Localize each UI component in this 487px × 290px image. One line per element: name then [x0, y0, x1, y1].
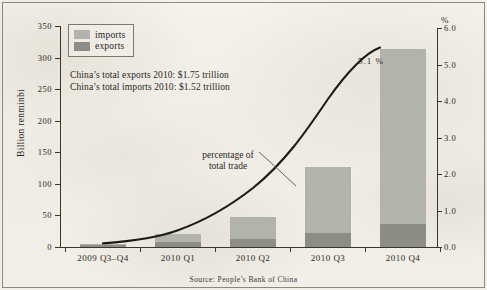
legend-label-exports: exports [95, 41, 124, 51]
y-tick-label: 250 [28, 84, 52, 94]
bar-imports [305, 167, 351, 233]
annotation-line-2: total trade [178, 161, 278, 172]
y-tick [55, 184, 60, 185]
y-tick [55, 89, 60, 90]
legend-label-imports: imports [95, 30, 125, 40]
y-tick-label: 300 [28, 53, 52, 63]
bar-exports [230, 239, 276, 247]
y2-tick [437, 28, 442, 29]
y2-tick [437, 211, 442, 212]
y-tick [55, 121, 60, 122]
y-tick [55, 152, 60, 153]
y-tick [55, 215, 60, 216]
legend-item-exports: exports [74, 41, 125, 51]
note-exports-total: China’s total exports 2010: $1.75 trilli… [70, 70, 230, 82]
y-tick-label: 0 [28, 242, 52, 252]
y2-tick-label: 5.0 [444, 60, 456, 70]
x-tick [215, 247, 216, 252]
y-tick-label: 50 [28, 210, 52, 220]
y2-tick-label: 2.0 [444, 169, 456, 179]
legend-item-imports: imports [74, 30, 125, 40]
x-tick-label: 2010 Q4 [355, 253, 451, 263]
y2-tick-label: 6.0 [444, 23, 456, 33]
y-tick-label: 150 [28, 147, 52, 157]
chart-legend: imports exports [68, 24, 134, 57]
line-series-annotation: percentage of total trade [178, 150, 278, 172]
bar-exports [305, 233, 351, 247]
bar-imports [380, 49, 426, 224]
y2-tick-label: 0.0 [444, 242, 456, 252]
legend-swatch-imports [74, 30, 90, 39]
y2-tick [437, 174, 442, 175]
bar-imports [230, 217, 276, 239]
x-tick [290, 247, 291, 252]
y2-tick-label: 4.0 [444, 96, 456, 106]
y-tick-label: 350 [28, 21, 52, 31]
y2-tick [437, 138, 442, 139]
x-tick [140, 247, 141, 252]
bar-imports [155, 234, 201, 242]
bar-exports [380, 224, 426, 247]
y-tick [55, 26, 60, 27]
x-axis-line [55, 247, 442, 248]
y2-tick [437, 101, 442, 102]
y2-tick-label: 1.0 [444, 206, 456, 216]
y2-tick [437, 65, 442, 66]
source-caption: Source: People’s Bank of China [0, 275, 487, 284]
x-tick [365, 247, 366, 252]
annotation-line-1: percentage of [178, 150, 278, 161]
x-tick [65, 247, 66, 252]
y-tick-label: 100 [28, 179, 52, 189]
y-axis-line [60, 26, 61, 247]
y-axis-title: Billion renminbi [16, 68, 26, 178]
legend-swatch-exports [74, 42, 90, 51]
chart-plot-area: Billion renminbi 350 300 250 200 150 100… [0, 0, 487, 290]
chart-notes: China’s total exports 2010: $1.75 trilli… [70, 70, 230, 93]
x-tick [440, 247, 441, 252]
y-tick-label: 200 [28, 116, 52, 126]
bar-imports [80, 244, 126, 245]
y2-tick-label: 3.0 [444, 133, 456, 143]
peak-percentage-label: 5.1 % [358, 56, 384, 66]
y-tick [55, 58, 60, 59]
note-imports-total: China’s total imports 2010: $1.52 trilli… [70, 82, 230, 94]
